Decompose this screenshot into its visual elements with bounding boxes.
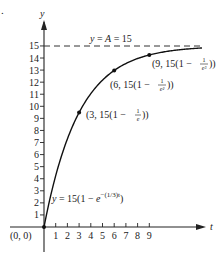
svg-text:1: 1 bbox=[161, 78, 164, 84]
y-tick-label: 9 bbox=[34, 113, 39, 124]
point-label-3: (3, 15(1 − 1 e )) bbox=[86, 108, 149, 122]
x-tick-label: 8 bbox=[135, 230, 140, 241]
x-tick-label: 6 bbox=[112, 230, 117, 241]
y-ticks: 123456789101112131415 bbox=[29, 40, 44, 220]
asymptote: y = A = 15 bbox=[44, 33, 202, 46]
svg-text:)): )) bbox=[167, 79, 174, 91]
svg-text:e: e bbox=[137, 116, 140, 122]
y-axis: y 123456789101112131415 bbox=[29, 8, 47, 252]
x-tick-label: 2 bbox=[65, 230, 70, 241]
data-point bbox=[77, 111, 81, 115]
y-tick-label: 6 bbox=[34, 149, 39, 160]
svg-text:(9, 15(1 −: (9, 15(1 − bbox=[152, 58, 192, 70]
x-ticks: 123456789 bbox=[53, 223, 152, 241]
x-axis: t 123456789 bbox=[10, 221, 213, 241]
data-point bbox=[147, 53, 151, 57]
point-label-6: (6, 15(1 − 1 e² )) bbox=[110, 78, 174, 92]
y-tick-label: 10 bbox=[29, 101, 39, 112]
y-tick-label: 12 bbox=[29, 77, 39, 88]
data-point bbox=[42, 225, 46, 229]
x-axis-arrow-icon bbox=[196, 224, 206, 230]
x-tick-label: 4 bbox=[88, 230, 93, 241]
chart: . y 123456789101112131415 t 123456789 y … bbox=[0, 0, 221, 261]
y-tick-label: 7 bbox=[34, 137, 39, 148]
y-tick-label: 1 bbox=[34, 209, 39, 220]
y-tick-label: 11 bbox=[29, 89, 39, 100]
svg-text:)): )) bbox=[209, 58, 216, 70]
y-tick-label: 5 bbox=[34, 161, 39, 172]
y-tick-label: 13 bbox=[29, 65, 39, 76]
asymptote-label: y = A = 15 bbox=[89, 33, 132, 44]
y-tick-label: 14 bbox=[29, 53, 39, 64]
x-axis-label: t bbox=[210, 221, 213, 232]
svg-text:(6, 15(1 −: (6, 15(1 − bbox=[110, 79, 150, 91]
svg-text:)): )) bbox=[142, 109, 149, 121]
y-axis-label: y bbox=[39, 8, 45, 19]
svg-text:e³: e³ bbox=[202, 65, 207, 71]
y-tick-label: 3 bbox=[34, 185, 39, 196]
svg-text:e²: e² bbox=[160, 86, 165, 92]
x-tick-label: 1 bbox=[53, 230, 58, 241]
y-axis-arrow-icon bbox=[41, 20, 47, 30]
data-point bbox=[112, 68, 116, 72]
x-tick-label: 7 bbox=[123, 230, 128, 241]
svg-text:1: 1 bbox=[203, 57, 206, 63]
y-tick-label: 15 bbox=[29, 40, 39, 51]
y-tick-label: 8 bbox=[34, 125, 39, 136]
x-tick-label: 9 bbox=[147, 230, 152, 241]
svg-text:(3, 15(1 −: (3, 15(1 − bbox=[86, 109, 126, 121]
y-tick-label: 2 bbox=[34, 197, 39, 208]
svg-text:1: 1 bbox=[137, 108, 140, 114]
origin-label: (0, 0) bbox=[10, 230, 32, 242]
point-label-9: (9, 15(1 − 1 e³ )) bbox=[152, 57, 216, 71]
y-tick-label: 4 bbox=[34, 173, 39, 184]
x-tick-label: 5 bbox=[100, 230, 105, 241]
x-tick-label: 3 bbox=[77, 230, 82, 241]
curve-equation: y = 15(1 − e−(1/3)t) bbox=[51, 191, 123, 205]
figure-marker: . bbox=[1, 4, 4, 16]
